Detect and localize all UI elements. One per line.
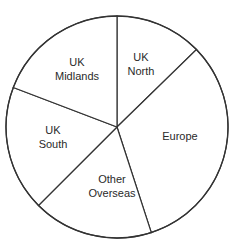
pie-slices — [6, 16, 228, 238]
slice-label: Europe — [162, 130, 197, 142]
pie-chart: UKNorthEuropeOtherOverseasUKSouthUKMidla… — [0, 0, 233, 248]
